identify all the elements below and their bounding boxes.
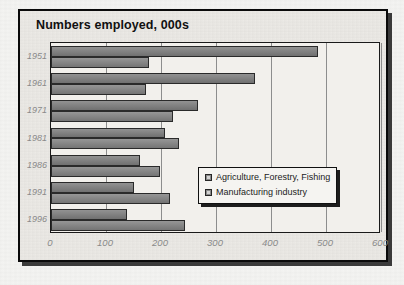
x-axis-tick-label: 100 <box>97 237 113 248</box>
y-axis-tick-label: 1971 <box>27 105 47 115</box>
bar <box>51 166 160 177</box>
chart-legend: Agriculture, Forestry, FishingManufactur… <box>198 167 337 204</box>
y-axis-tick-labels: 1951196119711981198619911996 <box>20 42 50 233</box>
bar <box>51 138 179 149</box>
chart-screenshot: Numbers employed, 000s 19511961197119811… <box>0 0 404 285</box>
legend-item: Manufacturing industry <box>205 187 307 197</box>
x-axis-tick-labels: 0100200300400500600 <box>50 237 380 255</box>
y-axis-tick-label: 1986 <box>27 160 47 170</box>
bar-group <box>51 98 379 125</box>
y-axis-tick-label: 1951 <box>27 51 47 61</box>
bar <box>51 57 149 68</box>
bar-group <box>51 70 379 97</box>
x-axis-tick-label: 400 <box>262 237 278 248</box>
bar <box>51 193 170 204</box>
bar <box>51 46 318 57</box>
y-axis-tick-label: 1996 <box>27 214 47 224</box>
bar-group <box>51 207 379 234</box>
bar <box>51 209 127 220</box>
bar <box>51 182 134 193</box>
bar <box>51 155 140 166</box>
gridline <box>381 43 382 232</box>
x-axis-tick-label: 500 <box>317 237 333 248</box>
bar <box>51 111 173 122</box>
bar <box>51 100 198 111</box>
x-axis-tick-label: 300 <box>207 237 223 248</box>
bar-group <box>51 125 379 152</box>
bar-group <box>51 43 379 70</box>
y-axis-tick-label: 1991 <box>27 187 47 197</box>
legend-item-label: Manufacturing industry <box>216 187 307 197</box>
chart-title: Numbers employed, 000s <box>36 18 189 32</box>
y-axis-tick-label: 1961 <box>27 78 47 88</box>
legend-item-label: Agriculture, Forestry, Fishing <box>216 172 330 182</box>
bar <box>51 128 165 139</box>
chart-frame: Numbers employed, 000s 19511961197119811… <box>18 9 388 262</box>
x-axis-tick-label: 0 <box>47 237 52 248</box>
legend-item: Agriculture, Forestry, Fishing <box>205 172 330 182</box>
bar <box>51 84 146 95</box>
bar <box>51 220 185 231</box>
legend-swatch-icon <box>205 189 212 196</box>
legend-swatch-icon <box>205 174 212 181</box>
x-axis-tick-label: 600 <box>372 237 388 248</box>
x-axis-tick-label: 200 <box>152 237 168 248</box>
bar <box>51 73 255 84</box>
y-axis-tick-label: 1981 <box>27 133 47 143</box>
